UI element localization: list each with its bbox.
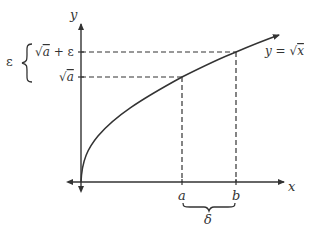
- x-axis-label: x: [288, 179, 296, 194]
- x-axis-left-arrow-icon: [66, 179, 73, 185]
- y-axis-label: y: [69, 7, 78, 22]
- x-tick-label-a: a: [178, 188, 186, 203]
- curve-label: y = √x: [264, 44, 304, 58]
- delta-label: δ: [204, 212, 212, 227]
- y-axis-down-arrow-icon: [78, 186, 84, 193]
- x-tick-label-b: b: [232, 188, 240, 203]
- y-tick-label-sqrt-a: √a: [59, 70, 74, 84]
- y-tick-label-sqrt-a-plus-eps: √a + ε: [35, 45, 74, 59]
- epsilon-label: ε: [6, 54, 13, 69]
- epsilon-brace-icon: [22, 44, 32, 82]
- sqrt-curve: [81, 35, 279, 182]
- sqrt-continuity-diagram: y x y = √x √a + ε √a ε a b δ: [0, 0, 313, 233]
- delta-brace-icon: [183, 203, 235, 211]
